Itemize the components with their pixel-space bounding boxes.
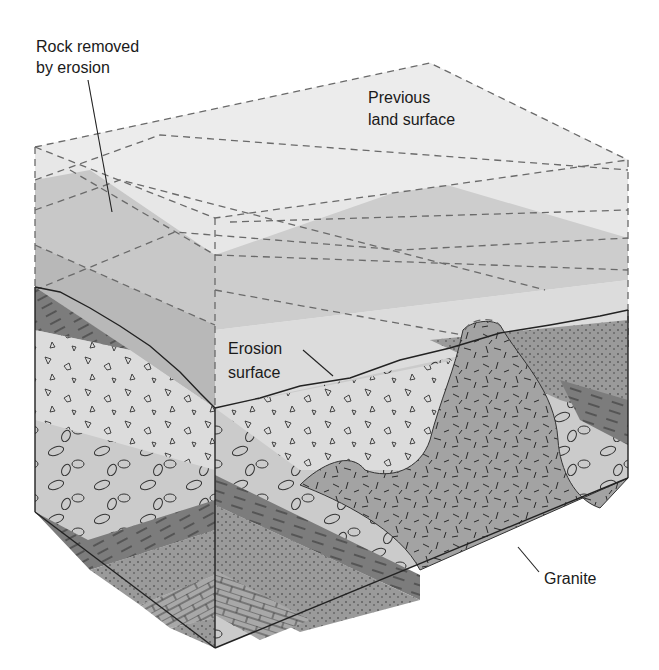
geologic-block-diagram: Rock removed by erosion Previous land su…	[0, 0, 659, 670]
svg-text:Rock removed: Rock removed	[36, 38, 139, 55]
label-granite: Granite	[518, 547, 597, 587]
svg-text:land surface: land surface	[368, 111, 455, 128]
svg-text:Granite: Granite	[544, 570, 597, 587]
svg-text:Previous: Previous	[368, 89, 430, 106]
svg-text:by erosion: by erosion	[36, 59, 110, 76]
svg-text:surface: surface	[228, 364, 281, 381]
svg-text:Erosion: Erosion	[228, 340, 282, 357]
